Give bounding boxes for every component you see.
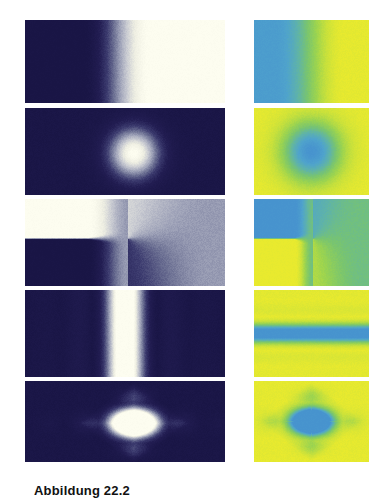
heatmap-panel-2-left: [25, 108, 225, 195]
heatmap-panel-2-right: [254, 108, 369, 195]
panel-5-right-canvas: [254, 381, 369, 462]
heatmap-panel-5-right: [254, 381, 369, 462]
heatmap-panel-1-left: [25, 20, 225, 103]
heatmap-panel-1-right: [254, 20, 369, 103]
panel-4-right-canvas: [254, 290, 369, 377]
panel-row-3: [0, 199, 383, 286]
panel-1-right-canvas: [254, 20, 369, 103]
panel-row-2: [0, 108, 383, 195]
heatmap-panel-3-right: [254, 199, 369, 286]
panel-3-right-canvas: [254, 199, 369, 286]
heatmap-panel-5-left: [25, 381, 225, 462]
panel-row-1: [0, 20, 383, 103]
panel-2-left-canvas: [25, 108, 225, 195]
heatmap-panel-3-left: [25, 199, 225, 286]
heatmap-panel-4-left: [25, 290, 225, 377]
panel-3-left-canvas: [25, 199, 225, 286]
panel-2-right-canvas: [254, 108, 369, 195]
panel-row-4: [0, 290, 383, 377]
panel-row-5: [0, 381, 383, 462]
panel-4-left-canvas: [25, 290, 225, 377]
panel-1-left-canvas: [25, 20, 225, 103]
figure-caption: Abbildung 22.2: [34, 483, 364, 501]
panel-5-left-canvas: [25, 381, 225, 462]
heatmap-panel-4-right: [254, 290, 369, 377]
